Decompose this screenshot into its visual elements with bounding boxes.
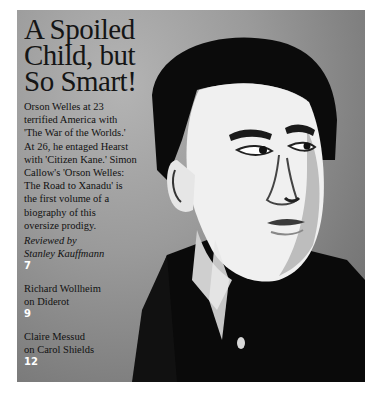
cover-panel: A Spoiled Child, but So Smart! Orson Wel… [17, 10, 365, 382]
page-number[interactable]: 7 [24, 260, 169, 272]
byline-line: Reviewed by [24, 235, 77, 246]
headline-line: So Smart! [24, 65, 136, 97]
byline-author: Stanley Kauffmann [24, 248, 104, 259]
contents-item[interactable]: Claire Messud on Carol Shields 12 [24, 331, 169, 368]
blurb-line: biography of this [24, 207, 96, 218]
contents-author: Richard Wollheim [24, 283, 169, 296]
page-number: 9 [24, 308, 169, 320]
contents-author: Claire Messud [24, 331, 169, 344]
blurb-line: the first volume of a [24, 193, 109, 204]
blurb-line: 'The War of the Worlds.' [24, 127, 126, 138]
blurb-line: terrified America with [24, 114, 117, 125]
feature-blurb: Orson Welles at 23 terrified America wit… [24, 100, 169, 232]
feature-text-column: A Spoiled Child, but So Smart! Orson Wel… [24, 16, 169, 368]
blurb-line: The Road to Xanadu' is [24, 180, 123, 191]
blurb-line: Orson Welles at 23 [24, 101, 104, 112]
contents-item[interactable]: Richard Wollheim on Diderot 9 [24, 283, 169, 320]
blurb-line: with 'Citizen Kane.' Simon [24, 154, 137, 165]
contents-subject: on Carol Shields [24, 344, 169, 357]
blurb-line: Callow's 'Orson Welles: [24, 167, 124, 178]
blurb-line: oversize prodigy. [24, 220, 96, 231]
page-number: 12 [24, 356, 169, 368]
byline: Reviewed by Stanley Kauffmann [24, 234, 169, 260]
contents-subject: on Diderot [24, 296, 169, 309]
blurb-line: At 26, he entaged Hearst [24, 141, 128, 152]
headline[interactable]: A Spoiled Child, but So Smart! [24, 16, 169, 94]
